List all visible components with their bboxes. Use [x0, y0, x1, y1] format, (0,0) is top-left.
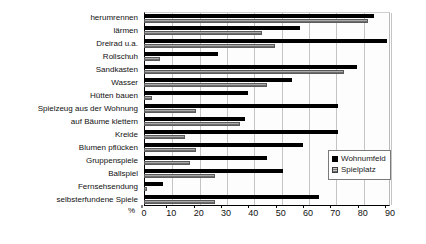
category-label: Blumen pflücken: [79, 143, 138, 152]
category-axis-labels: herumrennenlärmenDreirad u.a.RollschuhSa…: [0, 12, 142, 206]
bar-row: [144, 104, 390, 115]
bar-spielplatz: [144, 96, 152, 100]
bar-spielplatz: [144, 83, 267, 87]
bar-row: [144, 130, 390, 141]
bar-wohnumfeld: [144, 195, 319, 199]
x-axis-tick-mark: [276, 205, 277, 208]
bar-row: [144, 26, 390, 37]
legend-item-spielplatz[interactable]: Spielplatz: [332, 165, 386, 175]
x-axis-tick-mark: [385, 205, 386, 208]
legend-swatch-icon-wohnumfeld: [332, 156, 338, 162]
category-label: Kreide: [115, 130, 138, 139]
bar-row: [144, 52, 390, 63]
bar-row: [144, 39, 390, 50]
x-axis-tick-labels: 0102030405060708090: [0, 208, 426, 224]
bar-wohnumfeld: [144, 117, 245, 121]
x-axis-tick-label: 50: [276, 208, 286, 219]
legend-label-spielplatz: Spielplatz: [341, 165, 376, 175]
bar-spielplatz: [144, 200, 215, 204]
bar-row: [144, 65, 390, 76]
category-label: selbsterfundene Spiele: [57, 195, 138, 204]
category-label: Ballspiel: [108, 169, 138, 178]
category-label: Sandkasten: [96, 65, 138, 74]
x-axis-tick-label: 10: [166, 208, 176, 219]
bar-row: [144, 14, 390, 25]
category-label: Gruppenspiele: [86, 156, 138, 165]
bar-spielplatz: [144, 19, 368, 23]
bar-row: [144, 182, 390, 193]
bar-chart: herumrennenlärmenDreirad u.a.RollschuhSa…: [0, 0, 426, 244]
category-label: lärmen: [114, 26, 138, 35]
bar-spielplatz: [144, 57, 160, 61]
x-axis-tick-mark: [330, 205, 331, 208]
legend-swatch-icon-spielplatz: [332, 167, 338, 173]
x-axis-tick-mark: [221, 205, 222, 208]
category-label: Wasser: [111, 78, 138, 87]
bar-wohnumfeld: [144, 65, 357, 69]
x-axis-tick-label: 80: [358, 208, 368, 219]
bar-spielplatz: [144, 70, 344, 74]
bar-spielplatz: [144, 135, 185, 139]
bar-wohnumfeld: [144, 91, 248, 95]
category-label: Spielzeug aus der Wohnung: [38, 104, 138, 113]
bar-wohnumfeld: [144, 26, 300, 30]
bar-spielplatz: [144, 31, 262, 35]
category-label: auf Bäume klettern: [71, 117, 138, 126]
bar-spielplatz: [144, 187, 147, 191]
x-axis-tick-label: 30: [221, 208, 231, 219]
x-axis-tick-mark: [166, 205, 167, 208]
bar-wohnumfeld: [144, 169, 283, 173]
gridline: [391, 13, 392, 205]
bar-spielplatz: [144, 161, 190, 165]
x-axis-tick-mark: [194, 205, 195, 208]
category-label: herumrennen: [90, 13, 138, 22]
bar-wohnumfeld: [144, 130, 338, 134]
bar-wohnumfeld: [144, 104, 338, 108]
category-label: Dreirad u.a.: [96, 39, 138, 48]
x-axis-tick-label: 40: [248, 208, 258, 219]
x-axis-tick-label: 20: [194, 208, 204, 219]
bar-wohnumfeld: [144, 182, 163, 186]
category-label: Hütten bauen: [90, 91, 138, 100]
bar-row: [144, 91, 390, 102]
category-label: Rollschuh: [103, 52, 138, 61]
bar-wohnumfeld: [144, 14, 374, 18]
chart-legend: Wohnumfeld Spielplatz: [328, 150, 391, 180]
legend-item-wohnumfeld[interactable]: Wohnumfeld: [332, 154, 386, 164]
bar-wohnumfeld: [144, 39, 387, 43]
x-axis-tick-label: 70: [330, 208, 340, 219]
bar-wohnumfeld: [144, 52, 218, 56]
x-axis-tick-mark: [358, 205, 359, 208]
bar-row: [144, 78, 390, 89]
bar-row: [144, 117, 390, 128]
x-axis-tick-label: 60: [303, 208, 313, 219]
category-label: Fernsehsendung: [78, 182, 138, 191]
bar-spielplatz: [144, 174, 215, 178]
x-axis-tick-mark: [303, 205, 304, 208]
bar-spielplatz: [144, 148, 196, 152]
x-axis-tick-label: 0: [141, 208, 146, 219]
bar-wohnumfeld: [144, 156, 267, 160]
bar-row: [144, 195, 390, 206]
bar-spielplatz: [144, 44, 275, 48]
bar-spielplatz: [144, 122, 240, 126]
x-axis-tick-label: 90: [385, 208, 395, 219]
x-axis-tick-mark: [248, 205, 249, 208]
bar-wohnumfeld: [144, 78, 292, 82]
bar-spielplatz: [144, 109, 196, 113]
bar-wohnumfeld: [144, 143, 303, 147]
legend-label-wohnumfeld: Wohnumfeld: [341, 154, 386, 164]
x-axis-tick-mark: [141, 205, 142, 208]
